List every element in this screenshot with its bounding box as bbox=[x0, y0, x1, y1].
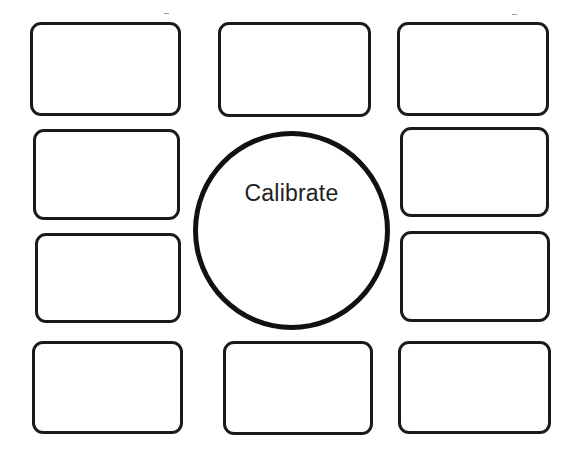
empty-box-row3-left bbox=[35, 233, 181, 323]
empty-box-top-left bbox=[30, 22, 181, 116]
hub-label: Calibrate bbox=[198, 180, 385, 207]
empty-box-bottom-left bbox=[32, 341, 183, 434]
empty-box-bottom-right bbox=[398, 341, 551, 434]
empty-box-top-right bbox=[397, 22, 549, 116]
empty-box-row3-right bbox=[400, 231, 550, 322]
scan-speck bbox=[164, 13, 169, 14]
empty-box-row2-left bbox=[33, 129, 180, 220]
scan-speck bbox=[512, 14, 517, 15]
empty-box-top-center bbox=[218, 22, 371, 117]
empty-box-row2-right bbox=[400, 127, 549, 217]
calibrate-hub-circle: Calibrate bbox=[193, 131, 390, 330]
empty-box-bottom-center bbox=[223, 341, 373, 435]
